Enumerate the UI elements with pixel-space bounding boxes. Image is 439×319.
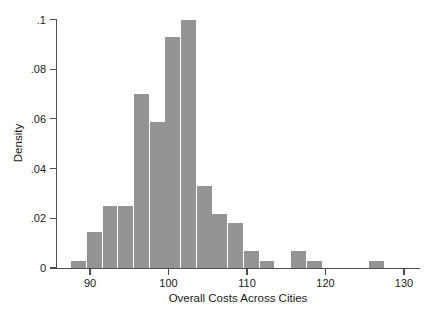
histogram-bar bbox=[228, 223, 243, 268]
x-tick-label: 130 bbox=[395, 277, 413, 289]
histogram-bar bbox=[197, 186, 212, 268]
x-tick-label: 120 bbox=[316, 277, 334, 289]
histogram-bar bbox=[260, 261, 275, 268]
histogram-bar bbox=[212, 214, 227, 268]
x-tick-label: 100 bbox=[159, 277, 177, 289]
y-tick-label: .08 bbox=[31, 63, 46, 75]
y-tick-label: 0 bbox=[40, 262, 46, 274]
y-tick-label: .06 bbox=[31, 113, 46, 125]
histogram-bar bbox=[291, 251, 306, 268]
histogram-bar bbox=[103, 206, 118, 268]
histogram-bar bbox=[118, 206, 133, 268]
figure-background bbox=[0, 0, 439, 319]
histogram-bar bbox=[369, 261, 384, 268]
histogram-bar bbox=[307, 261, 322, 268]
y-tick-label: .04 bbox=[31, 163, 46, 175]
histogram-bar bbox=[134, 94, 149, 268]
x-axis-title: Overall Costs Across Cities bbox=[169, 292, 308, 304]
x-tick-label: 90 bbox=[84, 277, 96, 289]
y-axis-title: Density bbox=[12, 124, 24, 163]
x-tick-label: 110 bbox=[238, 277, 256, 289]
histogram-bar bbox=[181, 20, 196, 269]
histogram-bar bbox=[150, 122, 165, 268]
histogram-figure: 0.02.04.06.08.1 90100110120130 Density O… bbox=[0, 0, 439, 319]
histogram-bar bbox=[165, 37, 180, 268]
y-tick-label: .1 bbox=[37, 14, 46, 26]
histogram-plot: 0.02.04.06.08.1 90100110120130 Density O… bbox=[0, 0, 439, 319]
y-tick-label: .02 bbox=[31, 212, 46, 224]
histogram-bar bbox=[244, 251, 259, 268]
histogram-bar bbox=[87, 232, 102, 268]
histogram-bar bbox=[71, 261, 86, 268]
